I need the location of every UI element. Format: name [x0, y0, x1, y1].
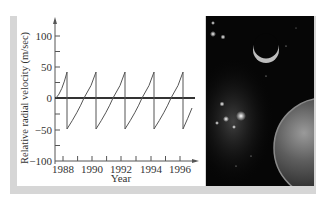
space-illustration — [206, 16, 314, 186]
planet-moon-image — [206, 16, 314, 186]
svg-text:−50: −50 — [35, 124, 53, 136]
radial-velocity-chart: 100 50 0 −50 −100 1988 1990 1992 1994 19… — [17, 16, 205, 186]
x-ticks — [63, 156, 180, 161]
y-ticks — [55, 36, 60, 146]
y-tick-labels: 100 50 0 −50 −100 — [29, 30, 52, 167]
chart-panel: 100 50 0 −50 −100 1988 1990 1992 1994 19… — [17, 16, 205, 186]
crescent-moon — [253, 34, 279, 64]
x-axis-label: Year — [111, 172, 132, 184]
y-axis-arrow-icon — [53, 17, 57, 24]
svg-text:1994: 1994 — [140, 163, 163, 175]
svg-text:1988: 1988 — [52, 163, 75, 175]
x-axis-arrow-icon — [192, 159, 199, 163]
radial-velocity-curve — [56, 72, 192, 129]
y-axis-label: Relative radial velocity (m/sec) — [19, 31, 31, 164]
svg-text:50: 50 — [41, 61, 53, 73]
svg-text:0: 0 — [47, 92, 53, 104]
svg-text:1996: 1996 — [169, 163, 192, 175]
svg-text:100: 100 — [36, 30, 53, 42]
svg-text:1990: 1990 — [81, 163, 104, 175]
svg-text:−100: −100 — [29, 155, 52, 167]
